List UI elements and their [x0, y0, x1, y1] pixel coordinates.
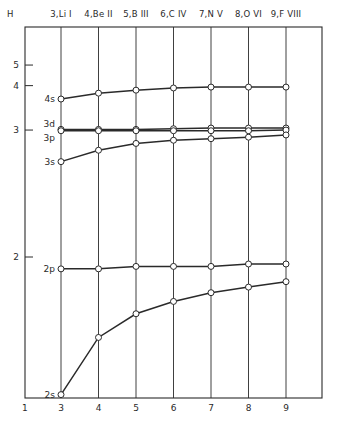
x-tick-label: 8 [246, 403, 252, 413]
x-tick-label: 4 [96, 403, 102, 413]
data-point [283, 132, 289, 138]
data-point [208, 136, 214, 142]
data-point [246, 284, 252, 290]
x-axis-origin-label: 1 [22, 403, 28, 413]
y-tick-label: 4 [13, 81, 19, 91]
series-labels: 4s3d3p3s2p2s [44, 94, 56, 400]
x-tick-label: 5 [133, 403, 139, 413]
y-tick-label: 2 [13, 252, 19, 262]
series-label: 3d [44, 119, 55, 129]
y-axis: 2345 [13, 60, 33, 262]
series-label: 3s [45, 157, 56, 167]
data-point [96, 90, 102, 96]
corner-label-h: H [7, 9, 14, 19]
data-point [246, 84, 252, 90]
data-point [58, 392, 64, 398]
data-point [171, 263, 177, 269]
data-point [133, 263, 139, 269]
data-point [208, 128, 214, 134]
data-point [246, 128, 252, 134]
series-label: 3p [44, 133, 56, 143]
series-label: 2p [44, 264, 56, 274]
y-tick-label: 5 [13, 60, 19, 70]
data-point [133, 311, 139, 317]
data-point [133, 140, 139, 146]
data-point [133, 87, 139, 93]
series-label: 4s [45, 94, 56, 104]
data-point [58, 266, 64, 272]
data-point [96, 147, 102, 153]
x-axis: 3456789 [58, 403, 289, 413]
series-label: 2s [45, 390, 56, 400]
ion-label: 6,C IV [160, 9, 186, 19]
data-point [96, 334, 102, 340]
ion-labels: 3,Li I4,Be II5,B III6,C IV7,N V8,O VI9,F… [50, 9, 301, 19]
data-point [283, 279, 289, 285]
data-point [133, 128, 139, 134]
ion-label: 3,Li I [50, 9, 72, 19]
x-tick-label: 7 [208, 403, 214, 413]
data-point [58, 159, 64, 165]
data-point [96, 128, 102, 134]
data-point [171, 298, 177, 304]
y-tick-label: 3 [13, 125, 19, 135]
x-tick-label: 3 [58, 403, 64, 413]
data-point [283, 261, 289, 267]
ion-label: 7,N V [199, 9, 223, 19]
data-point [208, 263, 214, 269]
data-point [246, 134, 252, 140]
x-tick-label: 9 [283, 403, 289, 413]
data-point [283, 84, 289, 90]
data-point [208, 290, 214, 296]
x-tick-label: 6 [171, 403, 177, 413]
ion-label: 5,B III [123, 9, 149, 19]
data-point [246, 261, 252, 267]
chart-canvas: 2345 3456789 3,Li I4,Be II5,B III6,C IV7… [0, 0, 338, 422]
ion-label: 4,Be II [84, 9, 112, 19]
data-point [208, 84, 214, 90]
ion-label: 8,O VI [235, 9, 262, 19]
data-point [171, 85, 177, 91]
ion-label: 9,F VIII [271, 9, 302, 19]
data-point [58, 96, 64, 102]
data-point [58, 128, 64, 134]
data-point [171, 128, 177, 134]
data-point [171, 137, 177, 143]
data-point [96, 266, 102, 272]
